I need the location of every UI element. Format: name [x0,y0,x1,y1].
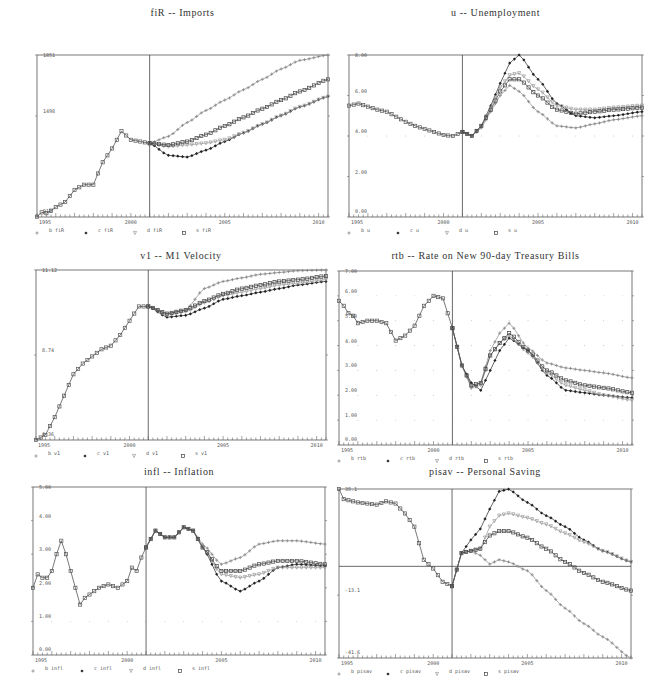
series-b [144,526,326,566]
series-c [461,53,644,137]
chart-u-plot: 19952000200520108.006.004.002.000.00b uc… [347,52,644,235]
legend-item: b infl [31,665,63,673]
legend-item: d v1 [132,450,158,458]
x-tick-label: 2010 [617,447,629,453]
y-tick-label: 3.00 [345,362,357,368]
y-tick-label: 4.00 [345,338,357,344]
legend-item: b fiR [35,227,65,235]
x-tick-label: 1995 [38,442,50,448]
x-tick-label: 2005 [217,442,229,448]
x-tick-label: 2010 [616,660,628,666]
y-tick-label: 1.00 [345,412,357,418]
svg-text:c fiR: c fiR [98,227,114,233]
y-tick-label: 4.00 [39,513,51,519]
series-d [461,72,644,138]
series-c [147,280,328,319]
y-tick-label: 5.00 [39,484,51,490]
svg-text:d infl: d infl [143,665,161,671]
series-c [148,95,330,159]
y-tick-label: 7.00 [345,268,357,274]
x-tick-label: 2000 [427,447,439,453]
x-tick-label: 2005 [521,660,533,666]
y-tick-label: 1851 [43,52,55,58]
y-tick-label: -41.6 [345,649,360,655]
legend-item: d pisav [435,668,470,676]
plot-frame [36,270,326,440]
plot-frame [33,487,325,655]
svg-text:c rtb: c rtb [400,455,415,461]
y-tick-label: 2.00 [345,387,357,393]
legend-item: d fiR [133,227,163,235]
x-tick-label: 2000 [125,219,137,225]
svg-text:b v1: b v1 [48,450,60,456]
svg-text:b rtb: b rtb [351,455,366,461]
y-tick-label: 3.00 [39,546,51,552]
chart-fir-plot: 199520002005201018511498913b fiRc fiRd f… [35,52,330,235]
legend-item: s rtb [484,455,513,463]
legend-item: c fiR [84,227,114,235]
y-tick-label: 8.00 [355,52,367,58]
y-tick-label: 2.00 [355,169,367,175]
y-tick-label: 35.1 [345,486,357,492]
svg-text:d fiR: d fiR [147,227,163,233]
svg-text:s u: s u [508,227,517,233]
y-tick-label: 6.00 [345,288,357,294]
legend-item: c rtb [386,455,415,463]
svg-text:b infl: b infl [45,665,63,671]
svg-text:d u: d u [459,227,468,233]
series-b [147,268,328,315]
legend-item: c u [396,227,419,235]
series-c [450,488,632,588]
plot-frame [339,271,632,445]
history-line [37,131,150,216]
series-s [144,526,326,573]
chart-rtb-plot: 19952000200520107.006.005.004.003.002.00… [337,268,634,463]
legend-item: b pisav [337,668,372,676]
y-tick-label: 0.00 [345,436,357,442]
series-b [148,53,330,144]
svg-text:c v1: c v1 [97,450,109,456]
legend-item: d infl [129,665,161,673]
legend-item: c infl [80,665,112,673]
y-tick-label: -13.1 [345,587,360,593]
svg-text:d pisav: d pisav [449,668,470,675]
legend-item: d u [445,227,468,235]
x-tick-label: 2000 [121,657,133,663]
svg-text:s v1: s v1 [195,450,207,456]
y-tick-label: 11.12 [42,267,57,273]
x-tick-label: 1995 [351,219,363,225]
plot-frame [37,55,328,217]
x-tick-label: 1995 [35,657,47,663]
svg-text:s infl: s infl [192,665,210,671]
y-tick-label: 1.00 [39,613,51,619]
history-line [36,306,148,440]
legend-item: b rtb [337,455,366,463]
x-tick-label: 2005 [219,219,231,225]
y-tick-label: 8.74 [42,347,54,353]
y-tick-label: 4.00 [355,128,367,134]
plot-canvas: 199520002005201018511498913b fiRc fiRd f… [0,0,668,700]
series-d [451,327,634,402]
series-b [450,549,632,659]
legend-item: s infl [178,665,210,673]
legend-item: b v1 [34,450,60,458]
x-tick-label: 2010 [310,657,322,663]
y-tick-label: 6.00 [355,88,367,94]
chart-infl-plot: 19952000200520105.004.003.002.001.000.00… [31,484,327,673]
x-tick-label: 2010 [627,219,639,225]
svg-text:d v1: d v1 [146,450,158,456]
x-tick-label: 1995 [39,219,51,225]
x-tick-label: 2005 [522,447,534,453]
x-tick-label: 2000 [124,442,136,448]
chart-pisav-plot: 199520002005201035.1-13.1-41.6b pisavc p… [337,486,633,676]
svg-text:c infl: c infl [94,665,112,671]
legend-item: s u [494,227,517,235]
svg-text:s fiR: s fiR [196,227,212,233]
legend-item: d rtb [435,455,464,463]
x-tick-label: 2010 [313,219,325,225]
y-tick-label: 1498 [43,108,55,114]
x-tick-label: 1995 [341,660,353,666]
svg-text:s pisav: s pisav [498,668,519,675]
svg-text:d rtb: d rtb [449,455,464,461]
legend-item: s v1 [181,450,207,458]
